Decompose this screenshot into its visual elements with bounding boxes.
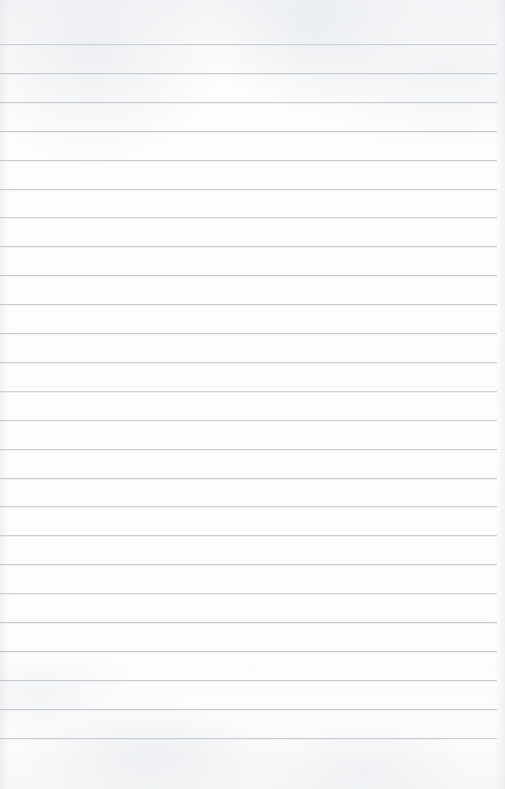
lined-paper-page: A blank sheet of lined notebook paper wi…: [0, 0, 505, 789]
paper-surface: [0, 0, 505, 789]
